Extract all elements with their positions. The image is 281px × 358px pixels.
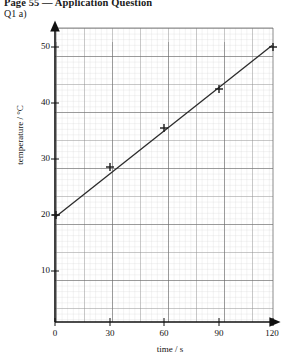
x-tick-label-120: 120 (257, 328, 281, 338)
y-axis-title: temperature / °C (15, 93, 25, 177)
y-tick-label-30: 30 (24, 153, 50, 163)
x-axis-title: time / s (130, 344, 210, 354)
grid-major (55, 28, 273, 322)
x-tick-label-30: 30 (95, 328, 125, 338)
plot-canvas (0, 0, 281, 358)
x-tick-label-60: 60 (149, 328, 179, 338)
y-tick-label-10: 10 (24, 265, 50, 275)
y-tick-label-20: 20 (24, 209, 50, 219)
temperature-time-chart: 50 40 30 20 10 0 30 60 90 120 temperatur… (0, 0, 281, 358)
y-tick-label-40: 40 (24, 97, 50, 107)
x-tick-label-0: 0 (40, 328, 70, 338)
x-tick-label-90: 90 (204, 328, 234, 338)
y-tick-label-50: 50 (24, 41, 50, 51)
